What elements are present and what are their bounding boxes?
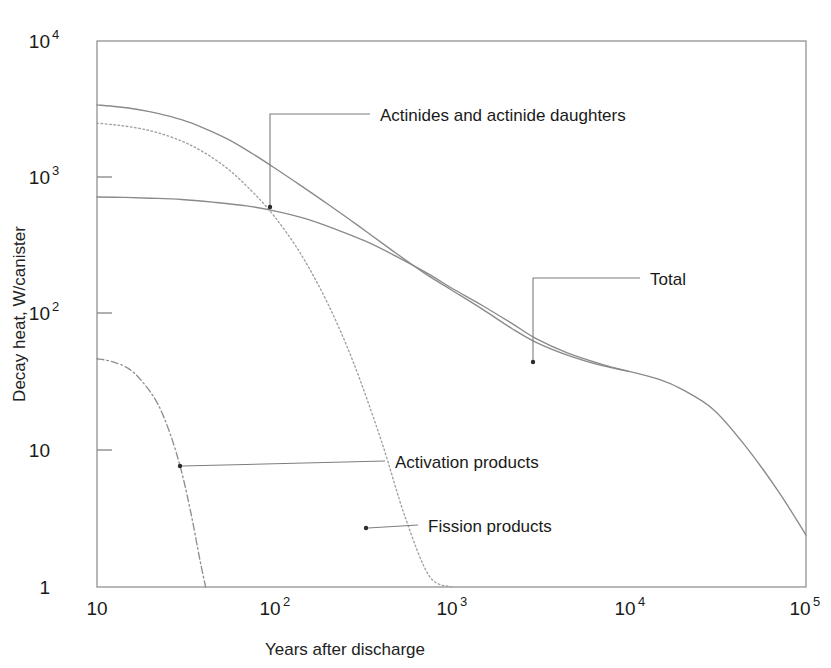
series-activation-products bbox=[97, 359, 206, 587]
ytick-label-1: 1 bbox=[39, 577, 50, 598]
x-axis-title: Years after discharge bbox=[265, 640, 425, 659]
xtick-label-10000: 10 4 bbox=[614, 594, 645, 619]
annotation-actinides: Actinides and actinide daughters bbox=[268, 106, 626, 209]
ytick-label-1-base: 1 bbox=[39, 577, 50, 598]
ytick-label-1000-exp: 3 bbox=[52, 163, 59, 178]
y-axis-title: Decay heat, W/canister bbox=[10, 226, 29, 402]
xtick-label-1000-base: 10 bbox=[436, 598, 457, 619]
annotation-actinides-leader bbox=[270, 114, 370, 205]
ytick-label-100-base: 10 bbox=[29, 303, 50, 324]
decay-heat-chart: 10 4 10 3 10 2 10 1 10 10 2 10 3 10 4 10… bbox=[0, 0, 831, 668]
annotation-fission-leader bbox=[368, 525, 418, 528]
annotation-fission-label: Fission products bbox=[428, 517, 552, 536]
series-fission-products bbox=[97, 123, 452, 587]
ytick-label-10000-base: 10 bbox=[29, 31, 50, 52]
annotation-total-label: Total bbox=[650, 270, 686, 289]
annotation-activation: Activation products bbox=[178, 453, 539, 472]
xtick-label-10000-exp: 4 bbox=[638, 594, 645, 609]
xtick-label-100000-base: 10 bbox=[789, 598, 810, 619]
xtick-label-1000: 10 3 bbox=[436, 594, 467, 619]
xtick-label-100000: 10 5 bbox=[789, 594, 820, 619]
ytick-label-10-base: 10 bbox=[29, 440, 50, 461]
ytick-label-100-exp: 2 bbox=[52, 299, 59, 314]
xtick-label-100-base: 10 bbox=[259, 598, 280, 619]
ytick-label-1000: 10 3 bbox=[29, 163, 59, 188]
ytick-label-10000-exp: 4 bbox=[52, 27, 59, 42]
annotation-actinides-arrow bbox=[268, 205, 272, 209]
xtick-label-10000-base: 10 bbox=[614, 598, 635, 619]
xtick-label-10-base: 10 bbox=[86, 598, 107, 619]
xtick-label-100000-exp: 5 bbox=[813, 594, 820, 609]
annotation-activation-leader bbox=[182, 461, 385, 466]
xtick-label-100: 10 2 bbox=[259, 594, 290, 619]
annotation-activation-arrow bbox=[178, 464, 182, 468]
xtick-label-1000-exp: 3 bbox=[460, 594, 467, 609]
ytick-label-10000: 10 4 bbox=[29, 27, 59, 52]
annotation-fission-arrow bbox=[364, 526, 368, 530]
annotation-actinides-label: Actinides and actinide daughters bbox=[380, 106, 626, 125]
ytick-label-1000-base: 10 bbox=[29, 167, 50, 188]
ytick-label-10: 10 bbox=[29, 440, 50, 461]
curve-group bbox=[97, 105, 806, 587]
annotation-fission: Fission products bbox=[364, 517, 552, 536]
ytick-label-100: 10 2 bbox=[29, 299, 59, 324]
xtick-label-100-exp: 2 bbox=[283, 594, 290, 609]
annotation-total-arrow bbox=[531, 360, 535, 364]
annotation-activation-label: Activation products bbox=[395, 453, 539, 472]
xtick-label-10: 10 bbox=[86, 598, 107, 619]
series-actinides-and-actinide-daughters bbox=[97, 197, 629, 371]
